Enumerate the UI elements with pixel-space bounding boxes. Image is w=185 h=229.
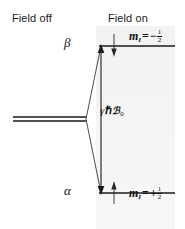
m-symbol-alpha: m [129,186,138,200]
sign-beta: − [150,29,157,43]
fraction-beta: 12 [157,29,163,44]
equals-sign-alpha: = [141,186,150,200]
energy-level-diagram-figure: Field off Field on β α mI=−12 mI=+12 γℏℬ… [0,0,185,229]
m-symbol-beta: m [129,29,138,43]
fraction-alpha: 12 [157,186,163,201]
state-label-alpha: α [64,183,71,199]
quantum-number-label-alpha: mI=+12 [129,186,162,202]
magnetic-field-subscript: 0 [120,110,124,118]
state-label-beta: β [64,35,70,51]
fraction-numerator-alpha: 1 [157,186,163,193]
equals-sign-beta: = [141,29,150,43]
header-field-off: Field off [12,12,52,24]
fraction-denominator-beta: 2 [157,36,163,44]
fraction-denominator-alpha: 2 [157,193,163,201]
sign-alpha: + [150,186,157,200]
header-field-on: Field on [108,12,148,24]
quantum-number-label-beta: mI=−12 [129,29,162,45]
energy-gap-label: γℏℬ0 [100,104,124,118]
fraction-numerator-beta: 1 [157,29,163,36]
